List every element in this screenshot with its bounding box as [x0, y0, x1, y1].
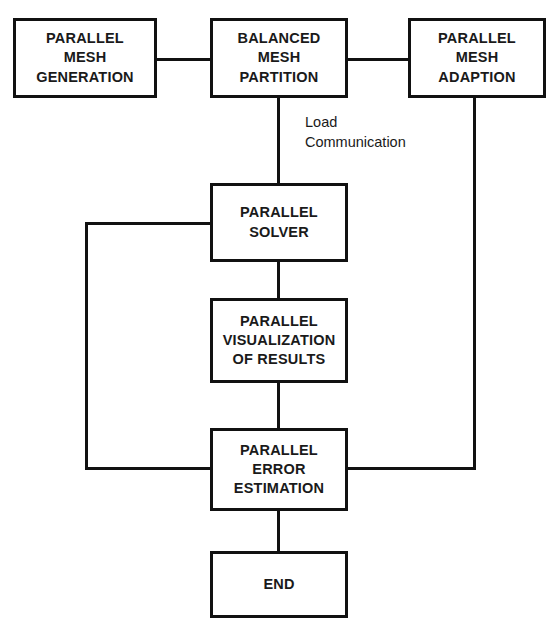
feedback-left-lower-segment	[85, 467, 213, 470]
node-parallel-mesh-generation[interactable]: PARALLEL MESH GENERATION	[13, 18, 157, 98]
node-label-line: MESH	[64, 48, 107, 67]
node-label-line: ESTIMATION	[234, 479, 324, 498]
node-label-line: OF RESULTS	[233, 350, 326, 369]
node-label-line: SOLVER	[249, 223, 309, 242]
node-label-line: BALANCED	[238, 29, 321, 48]
node-label-line: GENERATION	[36, 68, 134, 87]
connector-solver-down-to-visualization	[277, 262, 280, 298]
node-end[interactable]: END	[210, 551, 348, 618]
load-communication-line: Load	[305, 112, 406, 132]
node-label-line: END	[263, 575, 294, 594]
node-label-line: MESH	[258, 48, 301, 67]
connector-error-down-to-end	[277, 511, 280, 551]
node-label-line: PARALLEL	[438, 29, 516, 48]
feedback-left-upper-segment	[85, 222, 213, 225]
connector-partition-to-adaption	[348, 58, 408, 61]
node-label-line: PARALLEL	[240, 312, 318, 331]
node-parallel-mesh-adaption[interactable]: PARALLEL MESH ADAPTION	[408, 18, 546, 98]
node-label-line: PARALLEL	[240, 203, 318, 222]
flowchart-canvas: PARALLEL MESH GENERATION BALANCED MESH P…	[0, 0, 559, 625]
node-parallel-error-estimation[interactable]: PARALLEL ERROR ESTIMATION	[210, 428, 348, 511]
node-label-line: VISUALIZATION	[223, 331, 336, 350]
node-label-line: PARALLEL	[46, 29, 124, 48]
node-label-line: ADAPTION	[438, 68, 515, 87]
node-label-line: MESH	[456, 48, 499, 67]
node-parallel-solver[interactable]: PARALLEL SOLVER	[210, 183, 348, 262]
node-parallel-visualization-of-results[interactable]: PARALLEL VISUALIZATION OF RESULTS	[210, 298, 348, 383]
node-label-line: PARTITION	[240, 68, 319, 87]
node-label-line: PARALLEL	[240, 441, 318, 460]
node-label-line: ERROR	[252, 460, 305, 479]
load-communication-line: Communication	[305, 132, 406, 152]
feedback-right-riser	[473, 98, 476, 470]
feedback-left-riser	[85, 222, 88, 470]
feedback-right-lower-segment	[345, 467, 476, 470]
node-balanced-mesh-partition[interactable]: BALANCED MESH PARTITION	[210, 18, 348, 98]
connector-visualization-down-to-error	[277, 383, 280, 428]
load-communication-label: Load Communication	[305, 112, 406, 152]
connector-generation-to-partition	[157, 58, 210, 61]
connector-partition-down-to-solver	[277, 98, 280, 183]
